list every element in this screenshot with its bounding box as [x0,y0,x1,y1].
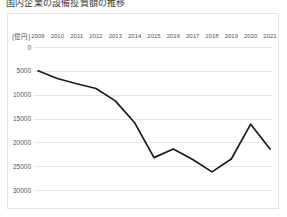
chart-screenshot: 国内企業の設備投資額の推移 (億円) 050001000015000200002… [0,0,287,217]
series-line [38,71,270,172]
series-line-layer [0,0,287,217]
plot-area: (億円) 050001000015000200002500030000 2009… [0,0,287,217]
